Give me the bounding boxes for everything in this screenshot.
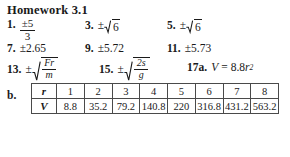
radical-sign-icon [124,57,133,81]
table-cell-v: 140.8 [140,99,168,114]
radicand: 6 [112,19,120,33]
answer-expression-1: ±5 3 [20,19,36,43]
radical-sign-icon [186,19,194,33]
table-cell-v: 316.8 [195,99,223,114]
problem-number-1: 1. [7,19,16,31]
fraction-denominator: g [137,70,146,81]
plus-minus-sign: ± [98,20,104,32]
answer-item-11: 11. ±5.73 [167,43,211,55]
answer-expression-9: ±5.72 [98,43,124,55]
equals-sign: = [221,62,228,74]
answer-expression-7: ±2.65 [20,43,46,55]
answer-expression-3: ± 6 [98,19,121,33]
fraction: Fr m [42,58,56,80]
row-header-v: V [32,99,57,114]
radical-sign-icon [104,19,112,33]
fraction-numerator: 2s [135,58,148,69]
answer-item-9: 9. ±5.72 [85,43,167,55]
table-row-r: r 1 2 3 4 5 6 7 8 [32,84,279,99]
fraction: ±5 3 [20,18,36,42]
table-cell-r: 1 [57,84,85,99]
fraction-denominator: m [44,70,55,81]
answer-expression-15: ± 2s g [117,58,150,82]
problem-number-17a: 17a. [187,62,207,74]
equation-coefficient: 8.8 [231,62,245,74]
table-cell-v: 563.2 [251,99,279,114]
problem-number-11: 11. [167,43,181,55]
row-header-r: r [32,84,57,99]
problem-number-7: 7. [7,43,16,55]
answer-item-15: 15. ± 2s g [99,58,187,82]
table-cell-r: 6 [195,84,223,99]
radicand: Fr m [41,57,58,81]
plus-minus-sign: ± [25,64,31,76]
radicand: 6 [194,19,202,33]
radicand: 2s g [133,57,150,81]
table-cell-v: 79.2 [112,99,140,114]
problem-number-15: 15. [99,64,113,76]
answer-item-3: 3. ± 6 [85,19,167,33]
table-cell-v: 8.8 [57,99,85,114]
answer-item-5: 5. ± 6 [167,19,202,33]
page-title: Homework 3.1 [7,3,286,17]
table-cell-r: 4 [140,84,168,99]
answer-row-3: 13. ± Fr m [7,58,286,82]
table-cell-r: 2 [84,84,112,99]
answer-row-1: 1. ±5 3 3. ± 6 [7,19,286,43]
problem-number-3: 3. [85,20,94,32]
values-table: r 1 2 3 4 5 6 7 8 V 8.8 35.2 79.2 140.8 … [31,83,279,114]
square-root: 2s g [124,57,150,81]
fraction-numerator: Fr [42,58,56,69]
square-root: 6 [104,19,120,33]
answer-item-7: 7. ±2.65 [7,43,85,55]
answer-item-13: 13. ± Fr m [7,58,99,82]
plus-minus-sign: ± [180,20,186,32]
part-b-section: b. r 1 2 3 4 5 6 7 8 V 8.8 35.2 [7,83,286,114]
table-cell-r: 7 [223,84,251,99]
table-cell-v: 220 [168,99,196,114]
answer-expression-17a: V = 8.8 r 2 [211,62,253,74]
answer-expression-13: ± Fr m [25,58,58,82]
answer-item-17a: 17a. V = 8.8 r 2 [187,58,253,74]
table-row-v: V 8.8 35.2 79.2 140.8 220 316.8 431.2 56… [32,99,279,114]
radical-sign-icon [32,57,41,81]
answer-row-2: 7. ±2.65 9. ±5.72 11. ±5.73 [7,43,286,58]
equation-lhs: V [211,62,218,74]
plus-minus-sign: ± [117,64,123,76]
equation-variable: r [245,62,249,74]
table-cell-v: 35.2 [84,99,112,114]
square-root: Fr m [32,57,58,81]
part-b-label: b. [7,83,31,101]
fraction-denominator: 3 [23,31,33,43]
table-cell-r: 5 [168,84,196,99]
homework-page: Homework 3.1 1. ±5 3 3. ± [0,0,290,157]
table-cell-v: 431.2 [223,99,251,114]
square-root: 6 [186,19,202,33]
table-cell-r: 8 [251,84,279,99]
answer-expression-11: ±5.73 [185,43,211,55]
answer-item-1: 1. ±5 3 [7,19,85,43]
table-cell-r: 3 [112,84,140,99]
problem-number-9: 9. [85,43,94,55]
problem-number-13: 13. [7,64,21,76]
problem-number-5: 5. [167,20,176,32]
fraction-numerator: ±5 [20,18,36,30]
answer-expression-5: ± 6 [180,19,203,33]
fraction: 2s g [134,58,148,80]
